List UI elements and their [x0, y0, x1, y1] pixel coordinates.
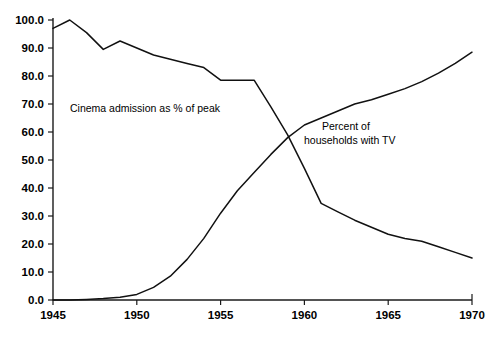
- y-axis-tick-label: 60.0: [22, 126, 44, 138]
- y-axis-tick-label: 40.0: [22, 182, 44, 194]
- y-axis-tick-label: 30.0: [22, 210, 44, 222]
- line-chart: 0.010.020.030.040.050.060.070.080.090.01…: [0, 0, 498, 341]
- y-axis-tick-label: 20.0: [22, 238, 44, 250]
- y-axis-tick-label: 10.0: [22, 266, 44, 278]
- chart-container: 0.010.020.030.040.050.060.070.080.090.01…: [0, 0, 498, 341]
- x-axis-tick-label: 1960: [292, 309, 318, 321]
- y-axis-tick-label: 90.0: [22, 42, 44, 54]
- tv-annotation-line2: households with TV: [304, 134, 395, 146]
- y-axis-tick-label: 0.0: [28, 294, 44, 306]
- x-axis-tick-label: 1965: [375, 309, 401, 321]
- cinema-annotation: Cinema admission as % of peak: [70, 102, 221, 114]
- x-axis-tick-label: 1955: [208, 309, 234, 321]
- y-axis-tick-label: 70.0: [22, 98, 44, 110]
- y-axis-tick-label: 100.0: [15, 14, 44, 26]
- y-axis-tick-label: 50.0: [22, 154, 44, 166]
- x-axis-tick-label: 1950: [124, 309, 150, 321]
- chart-background: [0, 0, 498, 341]
- tv-annotation-line1: Percent of: [322, 120, 370, 132]
- x-axis-tick-label: 1945: [40, 309, 66, 321]
- y-axis-tick-label: 80.0: [22, 70, 44, 82]
- x-axis-tick-label: 1970: [459, 309, 485, 321]
